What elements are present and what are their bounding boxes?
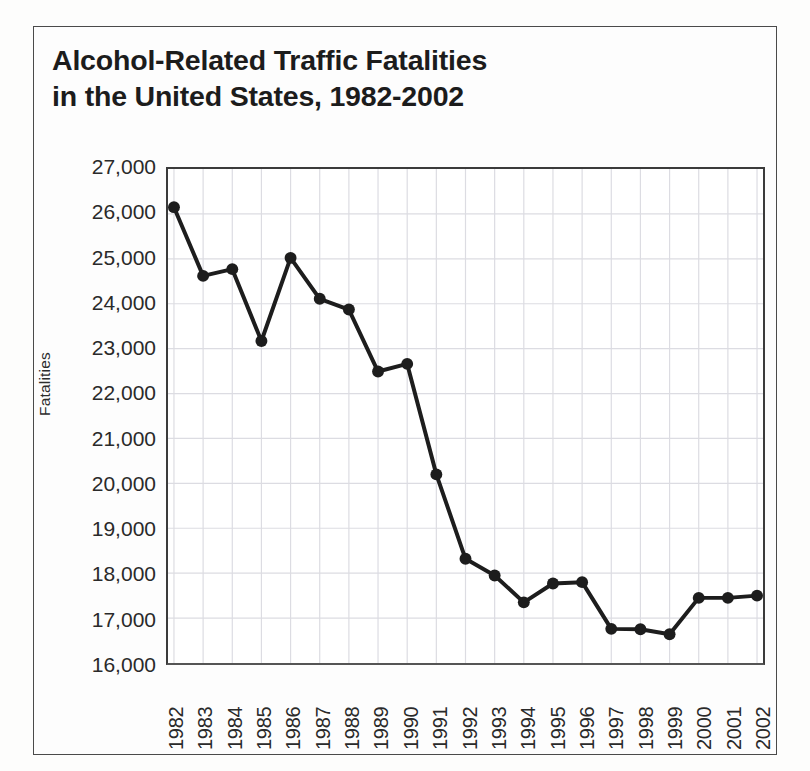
x-tick-label: 1992	[459, 707, 482, 750]
y-tick-label: 25,000	[6, 246, 156, 270]
y-tick-label: 19,000	[6, 517, 156, 541]
x-tick-label: 2001	[723, 707, 746, 750]
y-tick-label: 26,000	[6, 200, 156, 224]
x-tick-label: 1999	[664, 707, 687, 750]
x-axis-tick-labels: 1982198319841985198619871988198919901991…	[166, 672, 765, 758]
y-tick-label: 27,000	[6, 155, 156, 179]
x-tick-label: 1985	[253, 707, 276, 750]
x-tick-label: 1990	[400, 707, 423, 750]
y-tick-label: 16,000	[6, 653, 156, 677]
y-tick-label: 22,000	[6, 381, 156, 405]
x-tick-label: 1991	[429, 707, 452, 750]
x-tick-label: 1983	[194, 707, 217, 750]
x-tick-label: 1996	[576, 707, 599, 750]
y-tick-label: 20,000	[6, 472, 156, 496]
chart-title: Alcohol-Related Traffic Fatalities in th…	[52, 42, 712, 115]
x-tick-label: 1986	[282, 707, 305, 750]
y-tick-label: 21,000	[6, 427, 156, 451]
chart-title-line-2: in the United States, 1982-2002	[52, 78, 712, 114]
chart-title-line-1: Alcohol-Related Traffic Fatalities	[52, 42, 712, 78]
x-tick-label: 1982	[165, 707, 188, 750]
y-tick-label: 24,000	[6, 291, 156, 315]
x-tick-label: 1988	[341, 707, 364, 750]
x-tick-label: 1995	[547, 707, 570, 750]
x-tick-label: 1994	[517, 707, 540, 750]
series-fatalities: 1982: 261501983: 246201984: 247701985: 2…	[168, 169, 763, 663]
x-tick-label: 1984	[224, 707, 247, 750]
x-tick-label: 2000	[693, 707, 716, 750]
y-tick-label: 18,000	[6, 562, 156, 586]
y-tick-label: 23,000	[6, 336, 156, 360]
x-tick-label: 2002	[752, 707, 775, 750]
plot-area: 1982: 261501983: 246201984: 247701985: 2…	[166, 167, 765, 665]
x-tick-label: 1998	[635, 707, 658, 750]
x-tick-label: 1987	[312, 707, 335, 750]
x-tick-label: 1993	[488, 707, 511, 750]
x-tick-label: 1989	[370, 707, 393, 750]
y-tick-label: 17,000	[6, 608, 156, 632]
x-tick-label: 1997	[605, 707, 628, 750]
y-axis-tick-labels: 27,00026,00025,00024,00023,00022,00021,0…	[0, 167, 156, 665]
figure-root: Alcohol-Related Traffic Fatalities in th…	[0, 0, 810, 771]
